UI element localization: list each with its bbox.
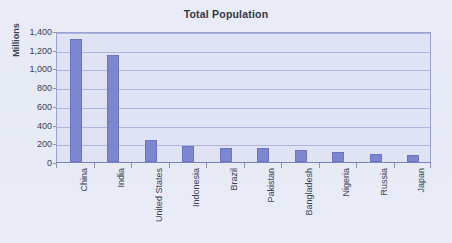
y-tick-label: 400 bbox=[14, 121, 52, 131]
bar-slot bbox=[95, 33, 133, 162]
x-tick-label: Pakistan bbox=[266, 168, 276, 203]
bar-chart: Total Population Millions 02004006008001… bbox=[0, 0, 452, 243]
y-tick-label: 1,200 bbox=[14, 46, 52, 56]
bar-slot bbox=[320, 33, 358, 162]
x-axis-tick-labels: ChinaIndiaUnited StatesIndonesiaBrazilPa… bbox=[56, 168, 431, 240]
bar-slot bbox=[395, 33, 433, 162]
bar[interactable] bbox=[70, 39, 82, 162]
bar[interactable] bbox=[332, 152, 344, 162]
x-tick-label: Indonesia bbox=[191, 168, 201, 207]
y-tick-label: 1,400 bbox=[14, 27, 52, 37]
bar[interactable] bbox=[182, 146, 194, 162]
y-axis-tick-labels: 02004006008001,0001,2001,400 bbox=[14, 27, 52, 163]
y-tick-label: 1,000 bbox=[14, 64, 52, 74]
y-tick-label: 600 bbox=[14, 102, 52, 112]
bar[interactable] bbox=[257, 148, 269, 162]
bar-slot bbox=[207, 33, 245, 162]
x-tick-label: India bbox=[116, 168, 126, 188]
bar-slot bbox=[170, 33, 208, 162]
bar[interactable] bbox=[220, 148, 232, 163]
bar[interactable] bbox=[370, 154, 382, 162]
bars-layer bbox=[57, 33, 430, 162]
bar-slot bbox=[245, 33, 283, 162]
bar[interactable] bbox=[107, 55, 119, 162]
x-tick-label: Russia bbox=[379, 168, 389, 196]
y-tick-label: 200 bbox=[14, 139, 52, 149]
x-tick-label: China bbox=[79, 168, 89, 192]
bar-slot bbox=[357, 33, 395, 162]
x-tick-label: Japan bbox=[416, 168, 426, 193]
bar[interactable] bbox=[145, 140, 157, 162]
x-tick-label: Nigeria bbox=[341, 168, 351, 197]
bar-slot bbox=[132, 33, 170, 162]
bar[interactable] bbox=[295, 150, 307, 162]
chart-title: Total Population bbox=[0, 8, 452, 20]
bar-slot bbox=[282, 33, 320, 162]
plot-area bbox=[56, 32, 431, 163]
x-tick-label: Brazil bbox=[229, 168, 239, 191]
y-tick-label: 0 bbox=[14, 158, 52, 168]
x-tick-label: Bangladesh bbox=[304, 168, 314, 216]
bar-slot bbox=[57, 33, 95, 162]
x-tick-label: United States bbox=[154, 168, 164, 222]
y-tick-label: 800 bbox=[14, 83, 52, 93]
